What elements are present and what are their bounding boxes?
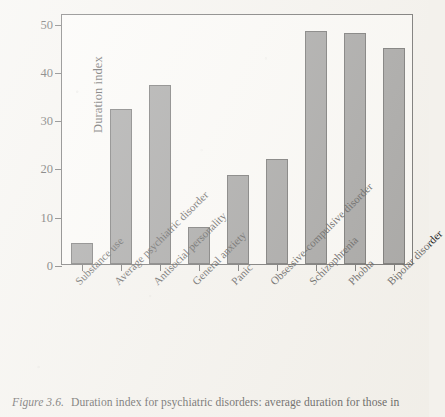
y-tick-label: 20: [41, 162, 54, 177]
y-tick-label: 10: [41, 210, 54, 225]
x-tick-mark: [316, 264, 317, 271]
chart-plot-area: Duration index 01020304050: [61, 14, 413, 265]
caption-text: Duration index for psychiatric disorders…: [71, 396, 399, 409]
x-axis-ticks: [62, 15, 412, 264]
x-tick-mark: [121, 264, 122, 271]
y-tick-mark: [55, 218, 62, 219]
x-tick-mark: [355, 264, 356, 271]
y-tick-mark: [55, 73, 62, 74]
figure-number: Figure 3.6.: [12, 396, 64, 409]
y-tick-mark: [55, 25, 62, 26]
x-tick-mark: [238, 264, 239, 271]
y-tick-label: 30: [41, 114, 54, 129]
x-tick-label: Panic: [229, 261, 255, 287]
y-tick-label: 0: [47, 259, 53, 274]
y-tick-label: 40: [41, 65, 54, 80]
x-tick-mark: [82, 264, 83, 271]
y-tick-mark: [55, 266, 62, 267]
x-tick-mark: [277, 264, 278, 271]
y-tick-mark: [55, 169, 62, 170]
x-tick-mark: [394, 264, 395, 271]
figure-caption: Figure 3.6.Duration index for psychiatri…: [12, 396, 424, 410]
y-tick-mark: [55, 121, 62, 122]
x-tick-mark: [160, 264, 161, 271]
y-tick-label: 50: [41, 17, 54, 32]
x-tick-mark: [199, 264, 200, 271]
